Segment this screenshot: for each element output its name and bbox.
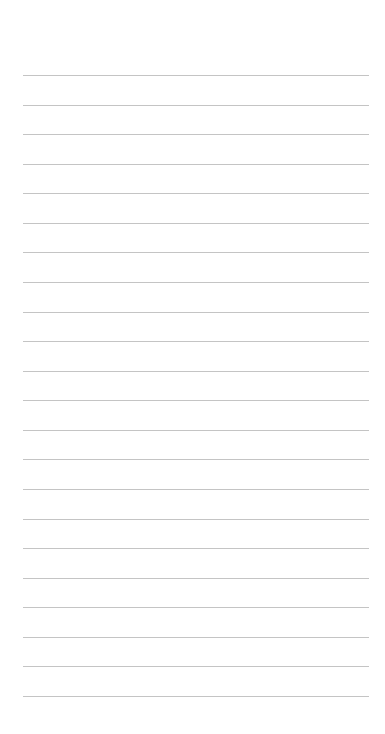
ruled-line: [23, 371, 369, 372]
ruled-line: [23, 578, 369, 579]
ruled-line: [23, 696, 369, 697]
ruled-line: [23, 134, 369, 135]
ruled-line: [23, 666, 369, 667]
ruled-line: [23, 400, 369, 401]
ruled-line: [23, 193, 369, 194]
ruled-line: [23, 312, 369, 313]
ruled-line: [23, 282, 369, 283]
ruled-line: [23, 519, 369, 520]
ruled-line: [23, 459, 369, 460]
ruled-line: [23, 252, 369, 253]
ruled-line: [23, 489, 369, 490]
ruled-line: [23, 607, 369, 608]
ruled-line: [23, 637, 369, 638]
ruled-line: [23, 341, 369, 342]
ruled-line: [23, 105, 369, 106]
ruled-line: [23, 430, 369, 431]
ruled-line: [23, 223, 369, 224]
ruled-line: [23, 164, 369, 165]
ruled-line: [23, 75, 369, 76]
lined-paper-page: [0, 0, 385, 734]
ruled-line: [23, 548, 369, 549]
